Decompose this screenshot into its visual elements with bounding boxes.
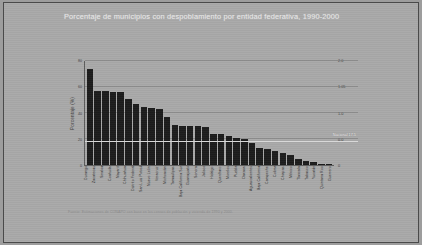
bar [272, 151, 279, 165]
x-axis-label: Morelos [226, 166, 234, 206]
bar [117, 92, 124, 165]
x-axis-label: Zacatecas [92, 166, 100, 206]
bar [287, 155, 294, 165]
y-axis-tick: 40 [78, 112, 82, 116]
gridline-extension [334, 86, 358, 87]
x-axis-label: Sinaloa [100, 166, 108, 206]
bar [318, 164, 325, 165]
x-axis-label: Durango [84, 166, 92, 206]
x-axis-label: Campeche [265, 166, 273, 206]
x-axis-label: Puebla [234, 166, 242, 206]
bar [94, 91, 101, 165]
y-axis-tick: 0 [80, 164, 82, 168]
national-average-line [85, 141, 358, 142]
x-axis-label: Distrito Federal [131, 166, 139, 206]
x-axis-label: Chiapas [281, 166, 289, 206]
x-axis-labels: DurangoZacatecasSinaloaCoahuilaNayaritCh… [84, 166, 336, 208]
bar [210, 134, 217, 165]
bar [156, 109, 163, 165]
bar [264, 149, 271, 165]
source-note: Fuente: Estimaciones de CONAPO con base … [68, 210, 368, 214]
bar [295, 159, 302, 166]
gridline-extension [334, 60, 358, 61]
bar [87, 69, 94, 165]
y-axis-tick: 80 [78, 59, 82, 63]
x-axis-label: Veracruz [155, 166, 163, 206]
bar [110, 92, 117, 165]
x-axis-label: Jalisco [202, 166, 210, 206]
bar [133, 104, 140, 165]
x-axis-label: Tamaulipas [171, 166, 179, 206]
x-axis-label: Colima [273, 166, 281, 206]
x-axis-label: Nuevo León [147, 166, 155, 206]
y-axis-tick: 20 [78, 138, 82, 142]
right-axis-ticks: 00.01.01.052.0 [336, 61, 360, 166]
bar [249, 143, 256, 165]
chart-container: Porcentaje (%) 020406080 00.01.01.052.0 … [66, 61, 358, 166]
bar [172, 125, 179, 165]
bar [179, 126, 186, 165]
bar [202, 127, 209, 165]
bar [280, 153, 287, 165]
slide-canvas: Porcentaje de municipios con despoblamie… [3, 2, 419, 243]
x-axis-label: Michoacán [163, 166, 171, 206]
bar [218, 134, 225, 165]
gridline-extension [334, 112, 358, 113]
x-axis-label: Guerrero [328, 166, 336, 206]
y-axis-tick: 60 [78, 85, 82, 89]
x-axis-label: Tlaxcala [297, 166, 305, 206]
bar [141, 107, 148, 166]
gridline-extension [334, 138, 358, 139]
bar [326, 164, 333, 165]
bar [303, 161, 310, 165]
x-axis-label: Sonora [194, 166, 202, 206]
bar [125, 99, 132, 165]
x-axis-label: México [289, 166, 297, 206]
bar [310, 162, 317, 165]
bar [148, 108, 155, 165]
bar [256, 148, 263, 165]
x-axis-label: Quintana Roo [320, 166, 328, 206]
national-average-label: Nacional 17.5 [333, 133, 356, 137]
x-axis-label: Coahuila [108, 166, 116, 206]
x-axis-label: Baja California [257, 166, 265, 206]
bar-series [85, 61, 334, 165]
page-title: Porcentaje de municipios con despoblamie… [64, 11, 394, 22]
bar [187, 126, 194, 165]
y-axis-ticks: 020406080 [71, 61, 83, 166]
x-axis-label: Querétaro [218, 166, 226, 206]
right-axis-tick: 0 [338, 164, 340, 168]
x-axis-label: Hidalgo [210, 166, 218, 206]
bar [241, 139, 248, 165]
plot-area: Nacional 17.5 [84, 61, 334, 166]
bar [102, 91, 109, 165]
x-axis-label: San Luis Potosí [139, 166, 147, 206]
bar [195, 126, 202, 165]
